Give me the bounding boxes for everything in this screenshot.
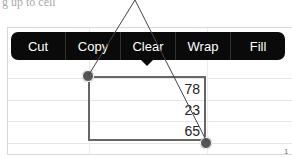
annotation-lines [0, 0, 292, 158]
annotation-line-right [135, 0, 207, 142]
corner-marker: 1 [284, 147, 288, 156]
annotation-line-left [88, 0, 135, 76]
